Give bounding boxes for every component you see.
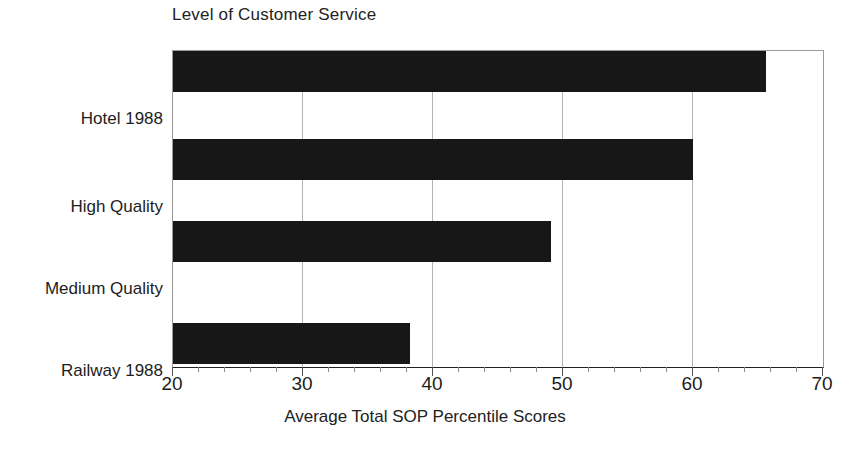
xtick-label-20: 20	[142, 373, 202, 395]
tick-minor-28	[276, 367, 277, 372]
gridline-40	[432, 51, 433, 367]
xtick-label-60: 60	[662, 373, 722, 395]
tick-minor-62	[718, 367, 719, 372]
chart-title: Level of Customer Service	[172, 5, 376, 25]
xtick-label-30: 30	[272, 373, 332, 395]
bar-hotel-1988	[173, 51, 766, 92]
tick-minor-38	[406, 367, 407, 372]
x-axis-title: Average Total SOP Percentile Scores	[0, 407, 850, 427]
bar-medium-quality	[173, 221, 551, 262]
gridline-30	[302, 51, 303, 367]
xtick-label-70: 70	[792, 373, 850, 395]
tick-minor-22	[198, 367, 199, 372]
bar-high-quality	[173, 139, 693, 180]
category-label-1: High Quality	[3, 197, 163, 217]
xtick-label-50: 50	[532, 373, 592, 395]
tick-minor-68	[796, 367, 797, 372]
tick-minor-56	[640, 367, 641, 372]
tick-minor-64	[744, 367, 745, 372]
tick-minor-46	[510, 367, 511, 372]
tick-minor-58	[666, 367, 667, 372]
gridline-60	[692, 51, 693, 367]
tick-minor-48	[536, 367, 537, 372]
plot-area	[172, 50, 824, 368]
tick-minor-44	[484, 367, 485, 372]
bar-chart-figure: Level of Customer Service Hotel 1988 Hig…	[0, 0, 850, 449]
gridline-50	[562, 51, 563, 367]
tick-minor-52	[588, 367, 589, 372]
tick-minor-66	[770, 367, 771, 372]
tick-minor-36	[380, 367, 381, 372]
category-label-2: Medium Quality	[3, 279, 163, 299]
tick-minor-24	[224, 367, 225, 372]
tick-minor-26	[250, 367, 251, 372]
category-axis-labels: Hotel 1988 High Quality Medium Quality R…	[0, 50, 163, 366]
bar-railway-1988	[173, 323, 410, 364]
x-axis-tick-labels: 20 30 40 50 60 70	[0, 373, 850, 399]
tick-minor-42	[458, 367, 459, 372]
xtick-label-40: 40	[402, 373, 462, 395]
tick-minor-34	[354, 367, 355, 372]
tick-minor-32	[328, 367, 329, 372]
tick-minor-54	[614, 367, 615, 372]
category-label-0: Hotel 1988	[3, 109, 163, 129]
